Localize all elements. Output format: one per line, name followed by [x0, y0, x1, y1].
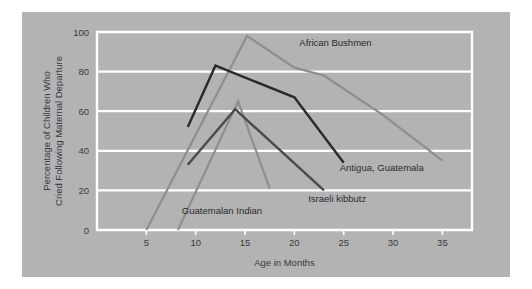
- series-label-0: African Bushmen: [299, 37, 371, 48]
- x-tick-label-35: 35: [437, 237, 448, 248]
- series-line-2: [188, 66, 344, 163]
- line-chart: 5101520253035 020406080100 African Bushm…: [22, 12, 510, 277]
- screenshot-root: 5101520253035 020406080100 African Bushm…: [0, 0, 532, 289]
- series-label-2: Antigua, Guatemala: [340, 162, 425, 173]
- series-label-3: Israeli kibbutz: [308, 193, 366, 204]
- x-tick-label-30: 30: [388, 237, 399, 248]
- x-tick-label-15: 15: [240, 237, 251, 248]
- x-tick-label-5: 5: [144, 237, 149, 248]
- series-label-1: Guatemalan Indian: [182, 205, 262, 216]
- y-tick-label-60: 60: [78, 106, 89, 117]
- chart-figure: 5101520253035 020406080100 African Bushm…: [22, 12, 510, 277]
- y-axis-title: Percentage of Children Who Cried Followi…: [41, 56, 64, 206]
- series-group: [146, 36, 442, 230]
- x-tick-label-25: 25: [338, 237, 349, 248]
- y-tick-label-80: 80: [78, 66, 89, 77]
- x-axis-title: Age in Months: [254, 257, 315, 268]
- y-tick-label-20: 20: [78, 185, 89, 196]
- x-tick-label-20: 20: [289, 237, 300, 248]
- series-labels: African BushmenGuatemalan IndianAntigua,…: [182, 37, 425, 216]
- y-tick-labels: 020406080100: [73, 27, 89, 236]
- x-tick-labels: 5101520253035: [144, 237, 448, 248]
- y-tick-label-100: 100: [73, 27, 89, 38]
- y-tick-label-40: 40: [78, 145, 89, 156]
- y-axis-title-line2: Cried Following Maternal Departure: [53, 56, 64, 206]
- y-axis-title-line1: Percentage of Children Who: [41, 71, 52, 190]
- y-tick-label-0: 0: [84, 225, 89, 236]
- x-tick-label-10: 10: [190, 237, 201, 248]
